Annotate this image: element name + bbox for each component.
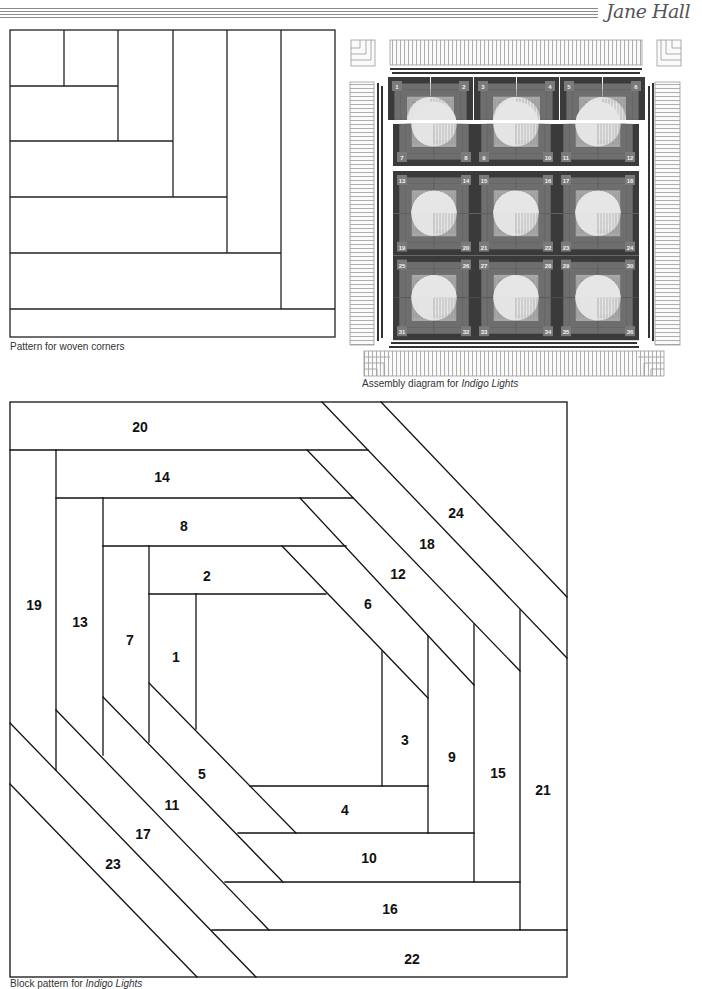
piece-label: 22 [404,951,420,967]
piece-label: 8 [180,518,188,534]
left-border [350,82,374,345]
block-number: 10 [545,155,552,161]
piece-label: 23 [105,856,121,872]
top-border [390,40,642,65]
piece-label: 6 [364,596,372,612]
block-number: 12 [627,155,634,161]
block-number: 26 [463,263,470,269]
piece-label: 1 [172,649,180,665]
block-number: 24 [627,245,634,251]
block-number: 14 [463,178,470,184]
woven-corners-caption: Pattern for woven corners [10,341,125,352]
piece-label: 9 [448,749,456,765]
piece-label: 14 [154,469,170,485]
piece-label: 7 [126,632,134,648]
woven-corners-pattern [0,0,345,345]
block-pattern-caption: Block pattern for Indigo Lights [10,978,142,989]
piece-label: 12 [390,566,406,582]
corner-block-top-left [351,40,375,66]
block-number: 15 [481,178,488,184]
corner-block-top-right [657,40,681,66]
block-number: 36 [627,329,634,335]
assembly-diagram: 1234567891011121314151617181920212223242… [345,30,702,380]
quilt-blocks: 1234567891011121314151617181920212223242… [386,77,648,340]
author-signature: Jane Hall [606,0,702,30]
piece-label: 13 [72,614,88,630]
block-number: 13 [399,178,406,184]
block-number: 34 [545,329,552,335]
block-number: 19 [399,245,406,251]
piece-label: 11 [165,797,180,813]
piece-label: 4 [341,802,349,818]
piece-label: 17 [135,826,151,842]
assembly-caption: Assembly diagram for Indigo Lights [362,378,518,389]
block-number: 28 [545,263,552,269]
block-number: 31 [399,329,406,335]
block-number: 35 [563,329,570,335]
block-number: 11 [563,155,570,161]
piece-label: 16 [382,901,398,917]
piece-label: 21 [535,782,551,798]
block-number: 29 [563,263,570,269]
block-pattern: 123456789101112131415161718192021222324 [0,395,580,984]
block-number: 18 [627,178,634,184]
piece-label: 24 [448,505,464,521]
block-number: 25 [399,263,406,269]
block-number: 21 [481,245,488,251]
piece-label: 10 [361,850,377,866]
piece-label: 19 [26,597,42,613]
bottom-border [364,351,664,376]
block-number: 32 [463,329,470,335]
piece-label: 20 [132,419,148,435]
block-number: 16 [545,178,552,184]
block-number: 20 [463,245,470,251]
piece-label: 5 [198,766,206,782]
right-border [655,82,680,345]
piece-label: 18 [419,536,435,552]
piece-label: 15 [490,765,506,781]
block-number: 23 [563,245,570,251]
block-number: 30 [627,263,634,269]
block-number: 22 [545,245,552,251]
block-number: 27 [481,263,488,269]
block-number: 33 [481,329,488,335]
piece-labels: 123456789101112131415161718192021222324 [26,419,551,967]
block-number: 17 [563,178,570,184]
piece-label: 2 [203,568,211,584]
piece-label: 3 [401,732,409,748]
